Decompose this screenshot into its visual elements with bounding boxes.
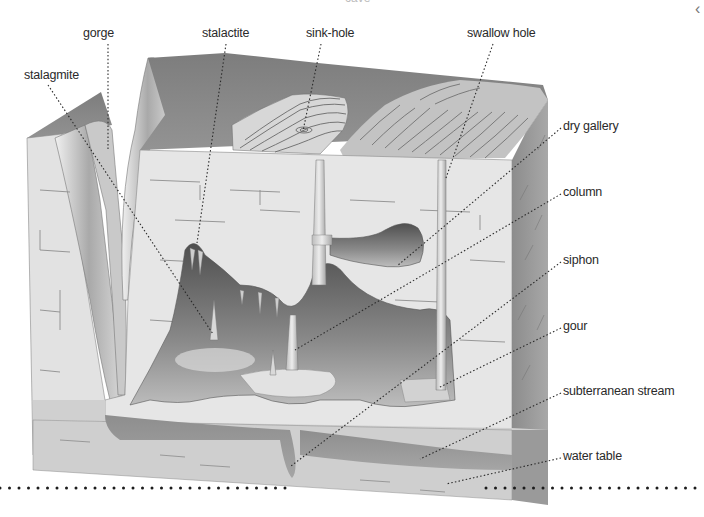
label-gour: gour <box>563 319 587 333</box>
label-column: column <box>563 185 602 199</box>
label-water-table: water table <box>563 449 622 463</box>
label-subterranean-stream: subterranean stream <box>563 384 675 398</box>
label-swallow-hole: swallow hole <box>467 26 535 40</box>
label-stalagmite: stalagmite <box>24 68 79 82</box>
cave-diagram: cave ‹ <box>0 0 704 517</box>
label-siphon: siphon <box>563 253 599 267</box>
label-gorge: gorge <box>83 26 114 40</box>
label-sink-hole: sink-hole <box>306 26 354 40</box>
label-stalactite: stalactite <box>202 26 249 40</box>
label-dry-gallery: dry gallery <box>563 119 618 133</box>
